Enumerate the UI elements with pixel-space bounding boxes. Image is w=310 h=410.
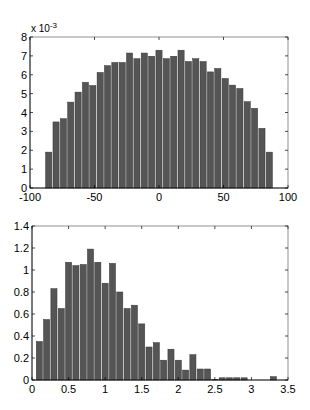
y-tick-label: 1.2 [14, 242, 29, 254]
histogram-bar [200, 62, 206, 188]
histogram-bar [270, 377, 276, 380]
histogram-bar [134, 59, 140, 188]
x-tick-label: 1 [102, 383, 108, 395]
histogram-bar [82, 82, 88, 188]
y-tick-label: 4 [21, 107, 27, 119]
y-tick-label: 8 [21, 31, 27, 43]
x-tick-label: 3.5 [280, 383, 295, 395]
histogram-bar [252, 108, 258, 188]
histogram-bar [168, 349, 174, 380]
top-histogram: -100-50050100012345678x 10-3 [19, 21, 297, 203]
histogram-bar [58, 309, 64, 381]
histogram-bar [60, 119, 66, 188]
y-tick-label: 1.4 [14, 220, 29, 232]
histogram-bar [141, 53, 147, 188]
x-tick-label: 0 [156, 191, 162, 203]
x-tick-label: 3 [248, 383, 254, 395]
histogram-bar [215, 69, 221, 188]
histogram-bar [178, 50, 184, 188]
histogram-bar [139, 324, 145, 380]
histogram-bar [204, 369, 210, 380]
histogram-bar [90, 86, 96, 188]
y-tick-label: 5 [21, 88, 27, 100]
histogram-bar [104, 66, 110, 188]
bottom-histogram: 00.511.522.533.500.20.40.60.811.21.4 [14, 220, 296, 395]
x-tick-label: 100 [279, 191, 297, 203]
histogram-bar [73, 266, 79, 380]
histogram-bar [117, 292, 123, 380]
histogram-bar [222, 79, 228, 188]
histogram-bar [259, 128, 265, 188]
x-tick-label: -50 [87, 191, 103, 203]
histogram-bar [46, 152, 52, 188]
histogram-bar [102, 283, 108, 380]
x-tick-label: 50 [217, 191, 229, 203]
histogram-bar [244, 102, 250, 188]
histogram-bar [51, 289, 57, 380]
histogram-bar [197, 369, 203, 380]
histogram-bar [146, 347, 152, 380]
histogram-bar [149, 56, 155, 188]
y-tick-label: 3 [21, 125, 27, 137]
histogram-bar [97, 72, 103, 188]
x-tick-label: 0 [29, 383, 35, 395]
y-tick-label: 0 [21, 182, 27, 194]
histogram-bar [207, 72, 213, 188]
y-tick-label: 6 [21, 69, 27, 81]
y-tick-label: 1 [21, 163, 27, 175]
histogram-bar [237, 89, 243, 188]
histogram-bar [109, 263, 115, 380]
y-tick-label: 1 [23, 264, 29, 276]
x-tick-label: 2 [175, 383, 181, 395]
histogram-bar [80, 265, 86, 381]
x-tick-label: 1.5 [134, 383, 149, 395]
y-tick-label: 0.8 [14, 286, 29, 298]
histogram-bar [36, 342, 42, 381]
histogram-bar [75, 92, 81, 188]
histogram-bar [190, 355, 196, 380]
histogram-bar [44, 320, 50, 381]
y-tick-label: 2 [21, 144, 27, 156]
histogram-bar [156, 50, 162, 188]
histogram-figure: -100-50050100012345678x 10-300.511.522.5… [0, 0, 310, 410]
histogram-bar [171, 56, 177, 188]
histogram-bar [153, 343, 159, 380]
y-tick-label: 0.6 [14, 308, 29, 320]
histogram-bar [183, 370, 189, 380]
histogram-bar [163, 59, 169, 188]
y-tick-label: 0.4 [14, 330, 29, 342]
x-tick-label: 0.5 [61, 383, 76, 395]
x-tick-label: 2.5 [207, 383, 222, 395]
y-tick-label: 7 [21, 50, 27, 62]
y-tick-label: 0 [23, 374, 29, 386]
histogram-bar [95, 262, 101, 380]
histogram-bar [229, 85, 235, 188]
histogram-bar [68, 102, 74, 188]
histogram-bar [53, 122, 59, 188]
histogram-bar [87, 249, 93, 380]
histogram-bar [266, 152, 272, 188]
histogram-bar [131, 305, 137, 380]
histogram-bar [119, 62, 125, 188]
histogram-bar [193, 59, 199, 188]
y-tick-label: 0.2 [14, 352, 29, 364]
histogram-bar [127, 53, 133, 188]
histogram-bar [112, 62, 118, 188]
histogram-bar [161, 360, 167, 380]
histogram-bar [66, 262, 72, 380]
histogram-bar [124, 309, 130, 381]
histogram-bar [185, 62, 191, 188]
y-multiplier-label: x 10-3 [31, 21, 58, 34]
